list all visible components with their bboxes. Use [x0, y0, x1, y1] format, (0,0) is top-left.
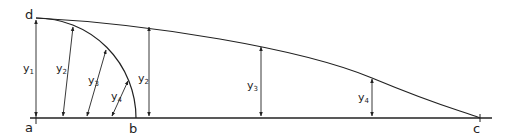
top-curve-dc	[36, 18, 480, 118]
ordinate-label-y3: y3	[247, 79, 258, 93]
radial-label-y4: y4	[111, 90, 123, 104]
point-label-d: d	[25, 7, 33, 22]
radial-label-y2: y2	[56, 62, 67, 76]
diagram-canvas: d a b c y1 y2 y3 y4 y2 y3 y4	[0, 0, 517, 140]
point-label-c: c	[473, 121, 480, 136]
radial-label-y3: y3	[88, 74, 99, 88]
point-label-b: b	[129, 121, 137, 136]
ordinate-label-y4: y4	[358, 91, 370, 105]
ordinate-label-y2: y2	[138, 72, 149, 86]
ordinate-label-y1: y1	[23, 62, 34, 76]
point-label-a: a	[25, 120, 33, 135]
